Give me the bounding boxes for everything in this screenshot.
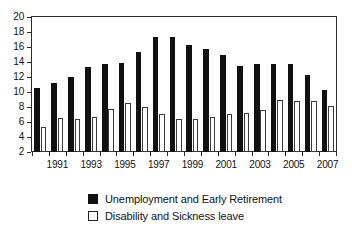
bar-unemployment <box>153 37 159 152</box>
bar-disability <box>142 107 148 152</box>
x-axis-tick-mark <box>235 152 236 156</box>
bar-group <box>32 17 49 152</box>
x-axis-tick-mark <box>66 152 67 156</box>
bar-unemployment <box>186 45 192 152</box>
x-axis-tick-label: 1999 <box>177 159 207 170</box>
bar-group <box>83 17 100 152</box>
bar-disability <box>277 100 283 153</box>
bar-disability <box>328 106 334 152</box>
bar-group <box>235 17 252 152</box>
x-axis-tick-label: 2005 <box>279 159 309 170</box>
bar-unemployment <box>220 55 226 152</box>
bar-group <box>302 17 319 152</box>
bar-disability <box>294 101 300 152</box>
y-axis-tick-label: 18 <box>2 27 24 37</box>
chart-legend: Unemployment and Early Retirement Disabi… <box>0 190 352 224</box>
bar-disability <box>159 114 165 152</box>
bar-disability <box>125 103 131 153</box>
bar-disability <box>58 118 64 153</box>
bar-unemployment <box>237 66 243 152</box>
x-axis-tick-mark <box>268 152 269 156</box>
x-axis-tick-mark <box>167 152 168 156</box>
bar-group <box>49 17 66 152</box>
bar-group <box>218 17 235 152</box>
bar-disability <box>227 114 233 152</box>
x-axis-tick-label: 1993 <box>76 159 106 170</box>
bar-unemployment <box>51 83 57 152</box>
bar-group <box>150 17 167 152</box>
bar-unemployment <box>254 64 260 153</box>
bars-area <box>32 17 336 152</box>
bar-group <box>285 17 302 152</box>
x-axis-tick-mark <box>133 152 134 156</box>
bar-disability <box>75 119 81 152</box>
x-axis-tick-label: 2001 <box>211 159 241 170</box>
x-axis-tick-mark <box>83 152 84 156</box>
bar-disability <box>193 119 199 152</box>
x-axis-tick-mark <box>285 152 286 156</box>
bar-group <box>201 17 218 152</box>
legend-item-unemployment: Unemployment and Early Retirement <box>0 190 352 207</box>
x-axis-tick-mark <box>116 152 117 156</box>
x-axis-tick-mark <box>252 152 253 156</box>
bar-group <box>100 17 117 152</box>
x-axis-tick-label: 1995 <box>110 159 140 170</box>
bar-unemployment <box>203 49 209 153</box>
bar-unemployment <box>68 77 74 152</box>
bar-unemployment <box>85 67 91 152</box>
bar-unemployment <box>170 37 176 152</box>
bar-group <box>184 17 201 152</box>
bar-unemployment <box>102 64 108 152</box>
bar-unemployment <box>322 90 328 152</box>
x-axis-tick-mark <box>32 152 33 156</box>
x-axis-tick-label: 1997 <box>144 159 174 170</box>
y-axis-tick-label: 8 <box>2 102 24 112</box>
x-axis-tick-mark <box>319 152 320 156</box>
y-axis-tick-label: 16 <box>2 42 24 52</box>
bar-unemployment <box>136 52 142 153</box>
y-axis-tick-label: 14 <box>2 57 24 67</box>
bar-disability <box>176 119 182 152</box>
bar-disability <box>108 109 114 153</box>
x-axis-tick-mark <box>49 152 50 156</box>
bar-group <box>133 17 150 152</box>
bar-unemployment <box>119 63 125 152</box>
bar-group <box>268 17 285 152</box>
y-axis-tick-label: 4 <box>2 132 24 142</box>
y-axis-tick-label: 6 <box>2 117 24 127</box>
bar-disability <box>311 101 317 152</box>
x-axis: 199119931995199719992001200320052007 <box>0 152 352 178</box>
bar-unemployment <box>34 88 40 152</box>
legend-swatch-outlined-square-icon <box>88 211 98 221</box>
x-axis-tick-label: 2007 <box>313 159 343 170</box>
y-axis: 2018161412108642 <box>0 0 31 168</box>
x-axis-tick-label: 2003 <box>245 159 275 170</box>
bar-disability <box>244 113 250 152</box>
x-axis-tick-mark <box>336 152 337 156</box>
bar-group <box>319 17 336 152</box>
bar-group <box>167 17 184 152</box>
y-axis-tick-label: 12 <box>2 72 24 82</box>
y-axis-tick-label: 10 <box>2 87 24 97</box>
bar-unemployment <box>288 64 294 153</box>
bar-unemployment <box>305 75 311 152</box>
legend-swatch-filled-square-icon <box>88 194 98 204</box>
bar-group <box>66 17 83 152</box>
bar-disability <box>210 117 216 152</box>
bar-chart: 2018161412108642 19911993199519971999200… <box>0 0 352 236</box>
x-axis-tick-mark <box>218 152 219 156</box>
bar-unemployment <box>271 64 277 152</box>
y-axis-tick-label: 20 <box>2 12 24 22</box>
x-axis-tick-mark <box>100 152 101 156</box>
bar-disability <box>92 117 98 152</box>
bar-disability <box>41 127 47 152</box>
bar-disability <box>260 110 266 152</box>
legend-label-disability: Disability and Sickness leave <box>105 210 244 222</box>
legend-label-unemployment: Unemployment and Early Retirement <box>105 193 282 205</box>
x-axis-tick-label: 1991 <box>42 159 72 170</box>
bar-group <box>116 17 133 152</box>
bar-group <box>252 17 269 152</box>
x-axis-tick-mark <box>184 152 185 156</box>
x-axis-tick-mark <box>302 152 303 156</box>
legend-item-disability: Disability and Sickness leave <box>0 207 352 224</box>
